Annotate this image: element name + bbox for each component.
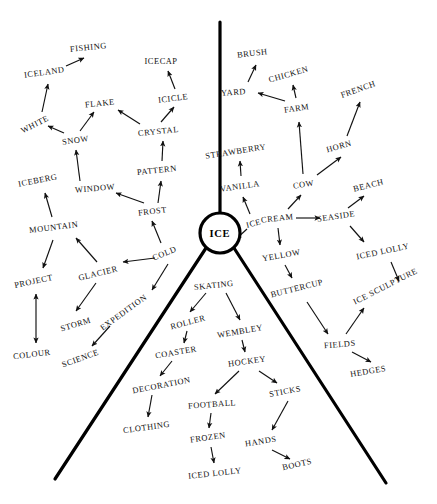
edge-mountain-to-project <box>43 240 53 268</box>
edge-crystal-to-icicle <box>161 107 174 122</box>
edge-icicle-to-icecap <box>168 71 175 89</box>
edge-crystal-to-flake <box>118 110 140 124</box>
edge-snow-to-flake <box>80 112 94 131</box>
edge-farm-to-yard <box>258 93 285 101</box>
edge-glacier-to-storm <box>76 283 96 311</box>
edge-cold-to-frost <box>152 221 161 243</box>
edge-frost-to-pattern <box>158 181 161 203</box>
edge-skating-to-wembley <box>226 293 240 320</box>
edge-hockey-to-football <box>215 371 239 394</box>
edge-fields-to-icesculpture <box>346 308 364 334</box>
edge-cream-to-cow <box>288 195 301 209</box>
diagram-canvas: ICEFISHINGICELANDWHITEICECAPICICLEFLAKES… <box>0 0 437 504</box>
hub-node-label-ice[interactable]: ICE <box>210 228 231 239</box>
edge-cold-to-expedition <box>152 264 168 290</box>
edge-wembley-to-hockey <box>242 340 245 352</box>
edge-cow-to-horn <box>317 157 341 175</box>
edge-decoration-to-clothing <box>148 395 152 417</box>
edge-glacier-to-mountain <box>76 238 97 262</box>
edge-hands-to-boots <box>272 450 290 459</box>
edge-vanilla-to-strawberry <box>240 161 241 176</box>
edge-iceland-to-fishing <box>66 58 84 66</box>
edge-snow-to-white <box>48 126 64 133</box>
edge-farm-to-chicken <box>293 85 296 98</box>
edge-seaside-to-icedlolly1 <box>350 226 364 242</box>
edge-sticks-to-hands <box>272 401 288 430</box>
edge-cream-to-yellow <box>278 228 280 245</box>
edge-horn-to-french <box>347 102 360 136</box>
edge-window-to-snow <box>76 150 80 181</box>
edge-football-to-frozen <box>209 413 211 428</box>
edge-ice2-to-vanilla <box>243 197 250 214</box>
edge-yard-to-brush <box>248 65 256 82</box>
edge-buttercup-to-fields <box>307 302 328 334</box>
node-label-icecap[interactable]: ICECAP <box>145 57 178 66</box>
node-label-yard[interactable]: YARD <box>220 87 246 98</box>
edge-coaster-to-decoration <box>160 361 172 376</box>
edge-seaside-to-beach <box>348 196 364 208</box>
edge-roller-to-coaster <box>184 331 187 343</box>
edge-pattern-to-crystal <box>162 141 163 161</box>
edge-frozen-to-icedlolly2 <box>211 447 214 463</box>
edge-cow-to-farm <box>299 122 303 174</box>
edge-white-to-iceland <box>42 84 48 112</box>
edge-mountain-to-iceberg <box>45 193 52 217</box>
edge-yellow-to-buttercup <box>285 265 292 278</box>
edge-frost-to-window <box>116 193 144 203</box>
edge-fields-to-hedges <box>352 352 371 362</box>
edge-hockey-to-sticks <box>259 371 277 383</box>
edge-cold-to-glacier <box>123 258 155 262</box>
edge-skating-to-roller <box>190 293 206 312</box>
